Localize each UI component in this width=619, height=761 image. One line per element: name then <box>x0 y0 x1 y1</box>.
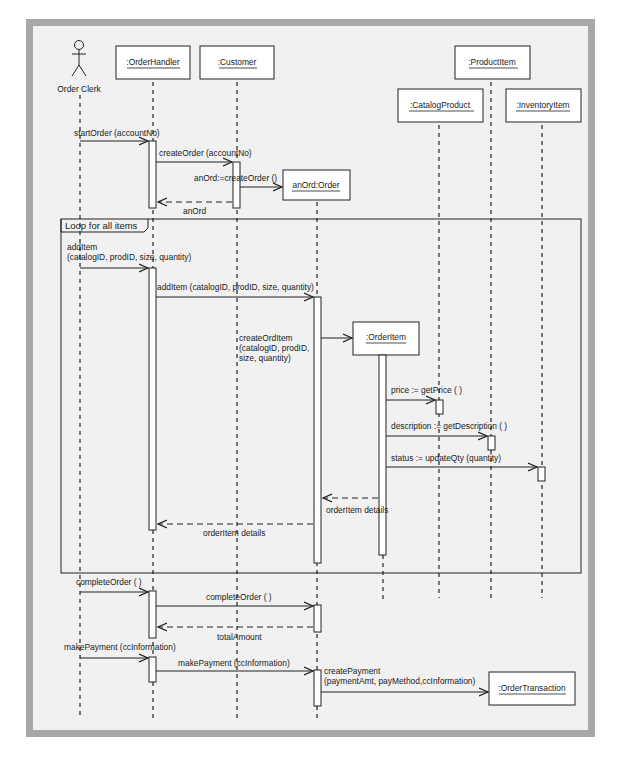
message-label: status := updateQty (quantity) <box>391 453 501 463</box>
activation-orderhandler-3 <box>149 591 156 638</box>
loop-label: Loop for all items <box>65 220 138 231</box>
message-label: orderItem details <box>203 528 265 538</box>
message-label: completeOrder ( ) <box>206 592 272 602</box>
activation-inventoryitem <box>538 467 545 481</box>
message-label: (catalogID, prodID, size, quantity) <box>67 252 191 262</box>
message-label: (catalogID, prodID, <box>239 343 309 353</box>
object-label: :InventoryItem <box>516 100 569 110</box>
message-label: size, quantity) <box>239 353 291 363</box>
object-customer: :Customer <box>200 46 274 79</box>
activation-orderhandler-2 <box>149 268 156 530</box>
message-label: makePayment (ccInformation) <box>64 642 176 652</box>
object-inventoryitem: :InventoryItem <box>506 89 581 122</box>
stick-figure-icon <box>72 41 86 77</box>
message-label: createOrder (accountNo) <box>159 148 252 158</box>
activation-order-2 <box>314 605 321 632</box>
activation-productitem <box>488 436 495 450</box>
object-orderitem: :OrderItem <box>353 322 419 355</box>
message-label: (paymentAmt, payMethod,ccInformation) <box>324 676 475 686</box>
activation-catalogproduct <box>436 400 443 414</box>
object-label: anOrd:Order <box>292 180 339 190</box>
object-label: :OrderItem <box>366 332 406 342</box>
message-label: addItem (catalogID, prodID, size, quanti… <box>157 282 314 292</box>
activation-orderitem <box>379 355 386 555</box>
activation-orderhandler-4 <box>149 657 156 682</box>
message-label: description := getDescription ( ) <box>391 421 507 431</box>
sequence-diagram: Order Clerk :OrderHandler :Customer anOr… <box>0 0 619 761</box>
object-orderhandler: :OrderHandler <box>116 46 190 79</box>
object-label: :Customer <box>218 57 257 67</box>
message-label: createOrdItem <box>239 333 293 343</box>
object-ordertransaction: :OrderTransaction <box>489 672 575 705</box>
message-label: addItem <box>67 242 97 252</box>
message-label: price := getPrice ( ) <box>391 385 462 395</box>
object-label: :ProductItem <box>468 57 516 67</box>
activation-customer-1 <box>233 162 240 208</box>
actor-label: Order Clerk <box>57 84 101 94</box>
object-catalogproduct: :CatalogProduct <box>398 89 483 122</box>
message-label: totalAmount <box>217 632 262 642</box>
message-label: anOrd <box>183 206 207 216</box>
object-label: :OrderHandler <box>126 57 179 67</box>
activation-orderhandler-1 <box>149 141 156 208</box>
message-label: makePayment (ccInformation) <box>178 658 290 668</box>
object-label: :CatalogProduct <box>410 100 471 110</box>
message-label: anOrd:=createOrder () <box>194 173 277 183</box>
message-label: createPayment <box>324 666 381 676</box>
activation-order-3 <box>314 670 321 706</box>
message-label: completeOrder ( ) <box>76 577 142 587</box>
object-label: :OrderTransaction <box>498 683 566 693</box>
object-order: anOrd:Order <box>283 170 350 200</box>
actor-order-clerk: Order Clerk <box>57 41 101 95</box>
activation-order-1 <box>314 297 321 563</box>
message-label: startOrder (accountNo) <box>74 128 160 138</box>
message-label: orderItem details <box>326 505 388 515</box>
object-productitem: :ProductItem <box>455 46 530 79</box>
